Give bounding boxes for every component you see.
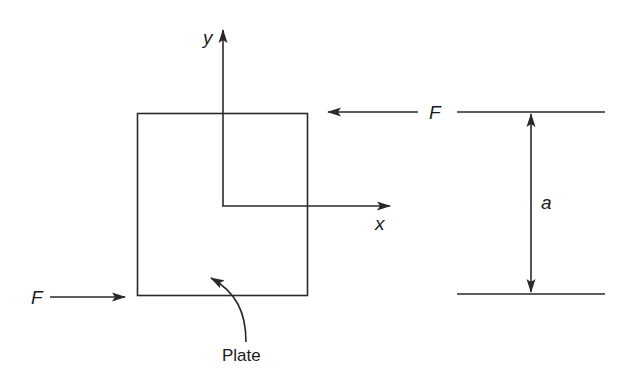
x-axis-label: x bbox=[375, 214, 385, 233]
force-top-label: F bbox=[429, 103, 441, 122]
plate-label: Plate bbox=[222, 347, 261, 364]
diagram-canvas: y x F F a Plate bbox=[0, 0, 634, 383]
plate-pointer-arrow bbox=[211, 278, 246, 342]
y-axis-label: y bbox=[203, 28, 213, 47]
dimension-label: a bbox=[541, 193, 552, 212]
force-left-label: F bbox=[31, 288, 43, 307]
diagram-svg bbox=[0, 0, 634, 383]
